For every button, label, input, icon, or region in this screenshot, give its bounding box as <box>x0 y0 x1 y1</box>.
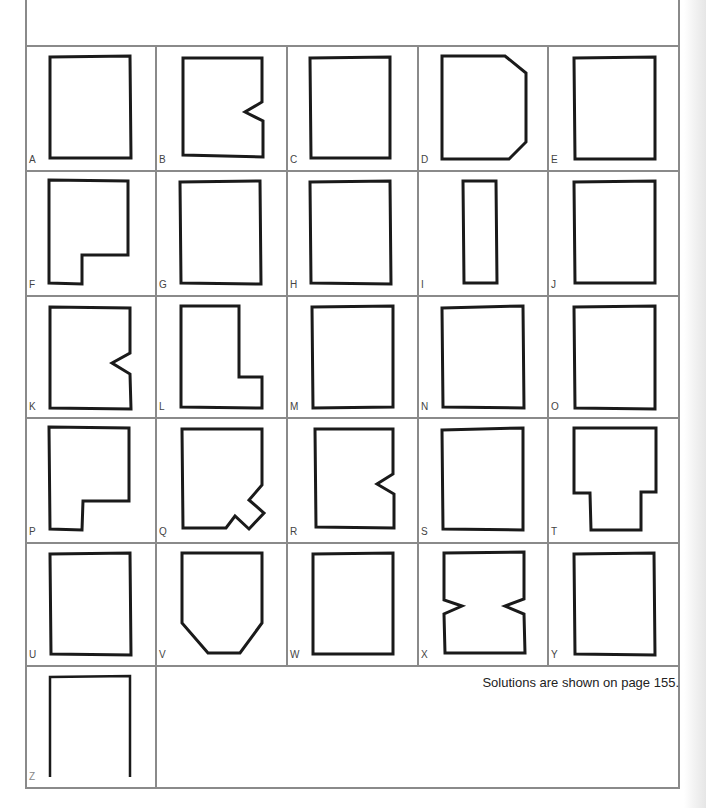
puzzle-cell-h: H <box>287 171 418 296</box>
puzzle-cell-l: L <box>156 296 287 418</box>
shape-rectangle-icon <box>287 171 418 296</box>
cell-label: F <box>29 280 35 290</box>
puzzle-cell-y: Y <box>548 543 679 666</box>
shape-rectangle-icon <box>548 171 679 296</box>
puzzle-cell-s: S <box>418 418 548 543</box>
cell-label: T <box>551 527 557 537</box>
cell-label: G <box>159 280 167 290</box>
puzzle-cell-c: C <box>287 46 418 171</box>
shape-rectangle-icon <box>26 543 156 666</box>
puzzle-cell-f: F <box>26 171 156 296</box>
shape-notched-rectangle-icon <box>26 296 156 418</box>
cell-label: V <box>159 650 166 660</box>
cell-label: Q <box>159 527 167 537</box>
cell-label: C <box>290 155 297 165</box>
cell-label: R <box>290 527 297 537</box>
shape-jagged-rectangle-icon <box>156 418 287 543</box>
shape-shield-icon <box>156 543 287 666</box>
shape-l-shape-icon <box>156 296 287 418</box>
puzzle-cell-i: I <box>418 171 548 296</box>
shape-rectangle-icon <box>418 418 548 543</box>
puzzle-cell-d: D <box>418 46 548 171</box>
puzzle-cell-v: V <box>156 543 287 666</box>
shape-notched-rectangle-icon <box>287 418 418 543</box>
cell-label: M <box>290 402 298 412</box>
puzzle-cell-r: R <box>287 418 418 543</box>
cell-label: P <box>29 527 36 537</box>
cell-label: X <box>421 650 428 660</box>
puzzle-cell-p: P <box>26 418 156 543</box>
cell-label: H <box>290 280 297 290</box>
puzzle-cell-m: M <box>287 296 418 418</box>
puzzle-cell-q: Q <box>156 418 287 543</box>
shape-narrow-rectangle-icon <box>418 171 548 296</box>
solutions-note: Solutions are shown on page 155. <box>482 675 679 690</box>
puzzle-cell-u: U <box>26 543 156 666</box>
shape-cutout-rectangle-icon <box>26 171 156 296</box>
cell-label: N <box>421 402 428 412</box>
shape-double-notch-icon <box>418 543 548 666</box>
shape-rectangle-icon <box>26 46 156 171</box>
puzzle-cell-e: E <box>548 46 679 171</box>
shape-notched-rectangle-icon <box>156 46 287 171</box>
cell-label: Z <box>29 772 35 782</box>
puzzle-cell-z: Z <box>26 666 156 788</box>
cell-label: W <box>290 650 299 660</box>
puzzle-cell-k: K <box>26 296 156 418</box>
cell-label: O <box>551 402 559 412</box>
cell-label: D <box>421 155 428 165</box>
shape-rectangle-icon <box>287 543 418 666</box>
cell-label: J <box>551 280 556 290</box>
cell-label: S <box>421 527 428 537</box>
puzzle-cell-j: J <box>548 171 679 296</box>
shape-cutout-rectangle-icon <box>26 418 156 543</box>
cell-label: I <box>421 280 424 290</box>
cell-label: U <box>29 650 36 660</box>
puzzle-cell-o: O <box>548 296 679 418</box>
cell-label: A <box>29 155 36 165</box>
cell-label: Y <box>551 650 558 660</box>
cell-label: B <box>159 155 166 165</box>
cell-label: K <box>29 402 36 412</box>
shape-rectangle-icon <box>418 296 548 418</box>
page-edge-shadow <box>684 0 706 808</box>
puzzle-cell-w: W <box>287 543 418 666</box>
shape-chamfered-rectangle-icon <box>418 46 548 171</box>
puzzle-cell-b: B <box>156 46 287 171</box>
shape-rectangle-icon <box>548 46 679 171</box>
puzzle-cell-n: N <box>418 296 548 418</box>
shape-rectangle-icon <box>548 296 679 418</box>
shape-rectangle-icon <box>287 46 418 171</box>
shape-rectangle-icon <box>26 666 156 788</box>
cell-label: E <box>551 155 558 165</box>
shape-rectangle-icon <box>156 171 287 296</box>
shape-rectangle-icon <box>548 543 679 666</box>
puzzle-cell-a: A <box>26 46 156 171</box>
shape-t-shape-icon <box>548 418 679 543</box>
puzzle-cell-x: X <box>418 543 548 666</box>
cell-label: L <box>159 402 165 412</box>
shape-rectangle-icon <box>287 296 418 418</box>
puzzle-cell-t: T <box>548 418 679 543</box>
puzzle-cell-g: G <box>156 171 287 296</box>
